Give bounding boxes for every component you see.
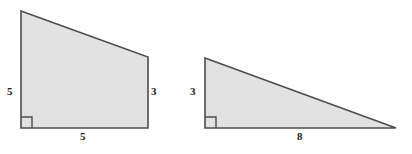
right-triangle-outline bbox=[205, 58, 396, 128]
trapezoid-left-side-label: 5 bbox=[7, 86, 13, 97]
right-trapezoid-outline bbox=[21, 11, 148, 128]
geometry-shapes-svg bbox=[0, 0, 412, 154]
trapezoid-bottom-side-label: 5 bbox=[80, 131, 86, 142]
triangle-bottom-side-label: 8 bbox=[297, 131, 303, 142]
trapezoid-right-side-label: 3 bbox=[151, 86, 157, 97]
right-trapezoid-shape bbox=[21, 11, 148, 128]
geometry-figure-canvas: 5 3 5 3 8 bbox=[0, 0, 412, 154]
right-triangle-shape bbox=[205, 58, 396, 128]
triangle-left-side-label: 3 bbox=[190, 86, 196, 97]
